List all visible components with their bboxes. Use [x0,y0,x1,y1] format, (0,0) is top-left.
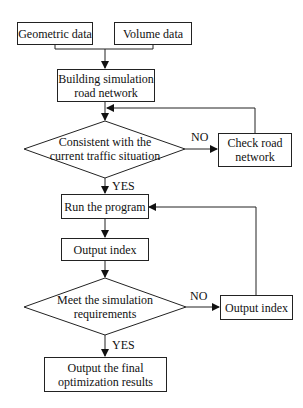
geometric-data-label: Geometric data [18,27,92,41]
final-results-node: Output the final optimization results [44,357,167,392]
decision-consistent-line2: current traffic situation [34,149,176,163]
decision2-yes-label: YES [112,339,135,351]
decision-requirements-line1: Meet the simulation [34,293,176,307]
run-program-label: Run the program [64,200,145,214]
decision-requirements-line2: requirements [34,307,176,321]
final-results-label-line1: Output the final [68,361,144,375]
decision2-no-label: NO [190,290,207,302]
building-network-node: Building simulation road network [57,69,155,102]
run-program-node: Run the program [61,194,149,219]
output-index-right-label: Output index [225,301,288,315]
flowchart-connectors [0,0,303,408]
decision-consistent-line1: Consistent with the [34,135,176,149]
decision-requirements-text: Meet the simulation requirements [34,293,176,321]
decision-consistent-text: Consistent with the current traffic situ… [34,135,176,163]
volume-data-node: Volume data [114,22,192,45]
check-road-label-line2: network [235,150,274,164]
decision1-no-label: NO [191,131,208,143]
geometric-data-node: Geometric data [17,22,93,45]
building-network-label-line1: Building simulation [58,72,154,86]
output-index-label: Output index [74,243,137,257]
check-road-network-node: Check road network [218,133,292,167]
decision1-yes-label: YES [112,180,135,192]
output-index-node: Output index [61,238,149,261]
check-road-label-line1: Check road [228,136,283,150]
volume-data-label: Volume data [123,27,183,41]
final-results-label-line2: optimization results [58,375,153,389]
building-network-label-line2: road network [74,86,138,100]
output-index-right-node: Output index [220,295,293,320]
